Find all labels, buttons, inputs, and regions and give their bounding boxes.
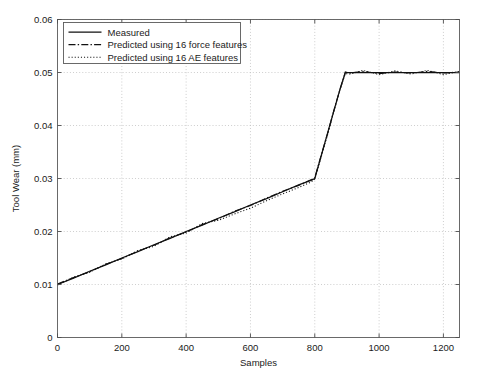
y-tick-label: 0.06: [34, 14, 53, 25]
y-tick-label: 0: [47, 332, 52, 343]
x-tick-label: 800: [307, 342, 323, 353]
y-tick-label: 0.04: [34, 120, 53, 131]
legend-label-0: Measured: [108, 27, 150, 38]
x-tick-label: 400: [178, 342, 194, 353]
legend-label-2: Predicted using 16 AE features: [108, 52, 239, 63]
y-tick-label: 0.02: [34, 226, 53, 237]
legend-label-1: Predicted using 16 force features: [108, 39, 248, 50]
y-axis-title: Tool Wear (mm): [10, 145, 21, 212]
x-tick-label: 1200: [433, 342, 454, 353]
chart-legend: MeasuredPredicted using 16 force feature…: [64, 23, 248, 64]
y-tick-label: 0.05: [34, 67, 53, 78]
x-tick-label: 1000: [369, 342, 390, 353]
x-axis-title: Samples: [240, 357, 277, 368]
x-tick-label: 600: [243, 342, 259, 353]
chart-figure: 020040060080010001200 00.010.020.030.040…: [0, 0, 483, 381]
x-tick-label: 200: [114, 342, 130, 353]
y-tick-label: 0.03: [34, 173, 53, 184]
y-tick-label: 0.01: [34, 279, 53, 290]
tool-wear-line-chart: 020040060080010001200 00.010.020.030.040…: [0, 0, 483, 381]
x-tick-label: 0: [55, 342, 60, 353]
